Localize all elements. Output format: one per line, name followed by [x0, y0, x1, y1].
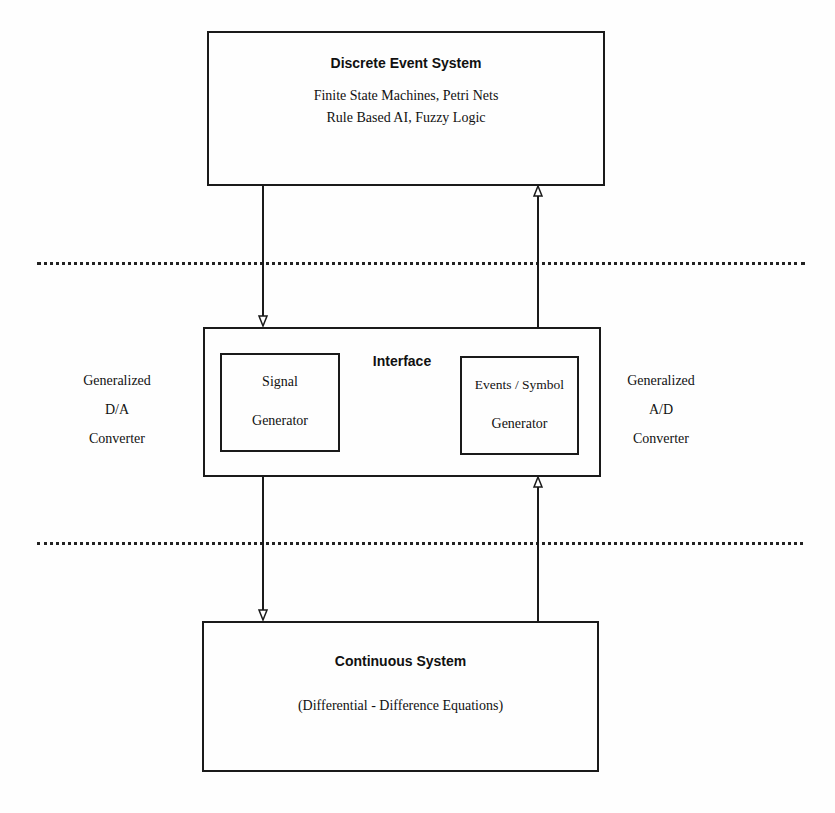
continuous-system-subtitle: (Differential - Difference Equations): [204, 696, 597, 716]
upper-layer-separator: [37, 262, 805, 265]
ad-label-line1: Generalized: [601, 366, 721, 395]
continuous-system-title: Continuous System: [204, 653, 597, 669]
da-label-line1: Generalized: [57, 366, 177, 395]
event-generator-line1: Events / Symbol: [462, 375, 577, 395]
da-label-line2: D/A: [57, 395, 177, 424]
lower-layer-separator: [37, 542, 803, 545]
hybrid-system-diagram: Discrete Event System Finite State Machi…: [0, 0, 835, 813]
continuous-system-box: Continuous System (Differential - Differ…: [202, 621, 599, 772]
arrowhead-down-icon: [259, 610, 267, 620]
ad-label-line3: Converter: [601, 424, 721, 453]
arrowhead-down-icon: [259, 316, 267, 326]
ad-label-line2: A/D: [601, 395, 721, 424]
signal-generator-box: Signal Generator: [220, 353, 340, 452]
discrete-methods-line2: Rule Based AI, Fuzzy Logic: [209, 108, 603, 128]
ad-converter-label: Generalized A/D Converter: [601, 366, 721, 453]
arrowhead-up-icon: [534, 186, 542, 196]
event-generator-line2: Generator: [462, 414, 577, 434]
discrete-event-system-box: Discrete Event System Finite State Machi…: [207, 31, 605, 186]
signal-generator-line2: Generator: [222, 411, 338, 431]
event-symbol-generator-box: Events / Symbol Generator: [460, 356, 579, 455]
da-converter-label: Generalized D/A Converter: [57, 366, 177, 453]
da-label-line3: Converter: [57, 424, 177, 453]
signal-generator-line1: Signal: [222, 372, 338, 392]
discrete-event-system-title: Discrete Event System: [209, 55, 603, 71]
arrowhead-up-icon: [534, 477, 542, 487]
discrete-methods-line1: Finite State Machines, Petri Nets: [209, 86, 603, 106]
